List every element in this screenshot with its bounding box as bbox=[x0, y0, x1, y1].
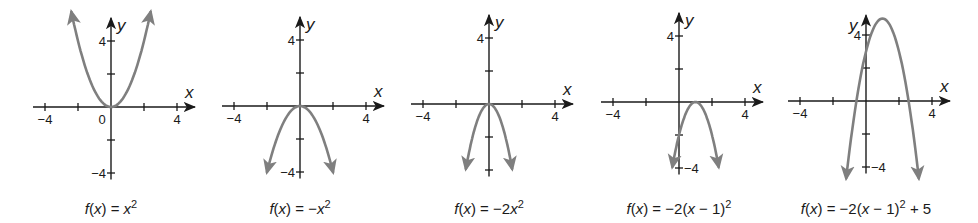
origin-label: 0 bbox=[98, 112, 105, 127]
parabola-transformations-figure: x y −4044−4 f(x) = x2 x y −444−4 f(x) = … bbox=[0, 0, 978, 223]
equation-caption: f(x) = −x2 bbox=[269, 198, 330, 217]
x-tick-label: 4 bbox=[928, 106, 935, 121]
y-axis-label: y bbox=[494, 13, 505, 32]
plot-f-x-squared: x y −4044−4 f(x) = x2 bbox=[33, 12, 195, 217]
y-axis bbox=[296, 17, 304, 179]
plot-f-shifted-right: x y −444−4 f(x) = −2(x − 1)2 bbox=[601, 11, 763, 217]
y-axis-label: y bbox=[116, 16, 127, 35]
x-tick-label: −4 bbox=[416, 109, 431, 124]
plot-f-neg-2x-squared: x y −444 f(x) = −2x2 bbox=[411, 13, 573, 217]
y-tick-label: 4 bbox=[288, 33, 295, 48]
x-tick-label: 4 bbox=[173, 112, 180, 127]
equation-caption: f(x) = x2 bbox=[85, 198, 137, 217]
x-tick-label: 4 bbox=[362, 111, 369, 126]
y-tick-label: 4 bbox=[99, 34, 106, 49]
x-tick-label: −4 bbox=[227, 111, 242, 126]
y-tick-label: 4 bbox=[854, 28, 861, 43]
tick-labels: −444 bbox=[416, 31, 559, 124]
y-tick-label: −4 bbox=[91, 166, 106, 181]
x-axis-label: x bbox=[373, 82, 383, 101]
y-tick-label: −4 bbox=[280, 165, 295, 180]
y-axis bbox=[107, 18, 115, 180]
y-tick-label: −4 bbox=[684, 161, 699, 176]
plot-f-shifted-right-up: x y −444−4 f(x) = −2(x − 1)2 + 5 bbox=[788, 15, 950, 217]
x-axis-label: x bbox=[184, 83, 194, 102]
y-axis-label: y bbox=[305, 15, 316, 34]
equation-caption: f(x) = −2(x − 1)2 bbox=[627, 198, 732, 217]
equation-caption: f(x) = −2(x − 1)2 + 5 bbox=[801, 198, 931, 217]
y-axis bbox=[485, 15, 493, 177]
x-tick-label: −4 bbox=[38, 112, 53, 127]
y-tick-label: −4 bbox=[871, 160, 886, 175]
plot-f-neg-x-squared: x y −444−4 f(x) = −x2 bbox=[222, 15, 384, 217]
y-tick-label: 4 bbox=[477, 31, 484, 46]
x-tick-label: −4 bbox=[793, 106, 808, 121]
x-tick-label: 4 bbox=[551, 109, 558, 124]
x-tick-label: −4 bbox=[606, 107, 621, 122]
x-axis bbox=[601, 98, 763, 106]
y-axis-label: y bbox=[684, 11, 695, 30]
equation-caption: f(x) = −2x2 bbox=[454, 198, 524, 217]
y-tick-label: 4 bbox=[667, 29, 674, 44]
x-axis-label: x bbox=[752, 78, 762, 97]
x-axis-label: x bbox=[939, 77, 949, 96]
x-axis-label: x bbox=[562, 80, 572, 99]
x-tick-label: 4 bbox=[741, 107, 748, 122]
x-axis bbox=[788, 97, 950, 105]
